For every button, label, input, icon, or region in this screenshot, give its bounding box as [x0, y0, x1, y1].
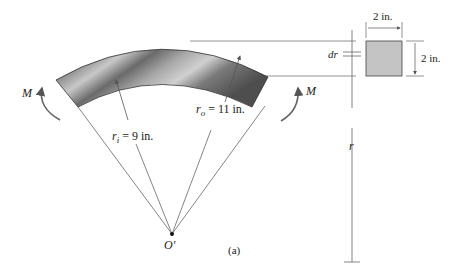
moment-left-label: M: [21, 86, 33, 100]
outer-radius-label: ro = 11 in.: [196, 102, 245, 118]
r-label: r: [349, 139, 354, 153]
figure-caption: (a): [228, 244, 241, 257]
curved-beam: [56, 49, 268, 107]
moment-right-label: M: [305, 84, 317, 98]
left-moment-arrow-icon: [41, 88, 60, 120]
right-moment-arrow-icon: [281, 88, 298, 121]
inner-radius-line: [136, 144, 172, 234]
center-point: [170, 232, 174, 236]
radial-line-left-edge: [78, 107, 172, 234]
outer-radius-line: [172, 130, 211, 234]
inner-radius-label: ri = 9 in.: [112, 129, 153, 145]
radial-line-right-edge: [172, 106, 265, 234]
section-height-label: 2 in.: [421, 52, 441, 64]
dr-label: dr: [328, 48, 339, 60]
curved-beam-diagram: M M ri = 9 in. ro = 11 in. dr r 2 in. 2 …: [0, 0, 464, 274]
section-width-label: 2 in.: [373, 10, 393, 22]
cross-section-square: [366, 41, 402, 76]
center-label: O': [164, 238, 176, 252]
